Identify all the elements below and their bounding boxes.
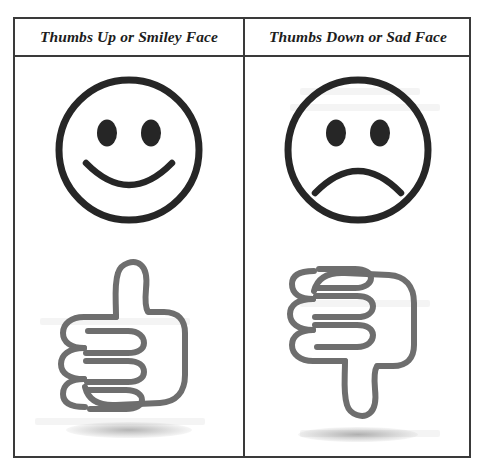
column-header-positive: Thumbs Up or Smiley Face (15, 19, 243, 55)
sad-face-slot (245, 65, 471, 235)
smiley-face-slot (15, 65, 243, 235)
thumbs-down-slot (245, 239, 471, 439)
thumbs-down-icon (283, 253, 433, 425)
table-body-row (15, 57, 469, 456)
comparison-table: Thumbs Up or Smiley Face Thumbs Down or … (13, 17, 471, 458)
table-cell-positive (15, 57, 243, 456)
thumbs-up-icon (54, 253, 204, 425)
column-header-negative: Thumbs Down or Sad Face (245, 19, 471, 55)
thumbs-up-slot (15, 239, 243, 439)
table-header-row: Thumbs Up or Smiley Face Thumbs Down or … (15, 19, 469, 57)
figure-shadow (66, 422, 192, 438)
figure-shadow (298, 427, 418, 442)
page-canvas: Thumbs Up or Smiley Face Thumbs Down or … (0, 0, 484, 470)
table-cell-negative (245, 57, 471, 456)
smiley-face-icon (53, 74, 205, 226)
sad-face-icon (282, 74, 434, 226)
